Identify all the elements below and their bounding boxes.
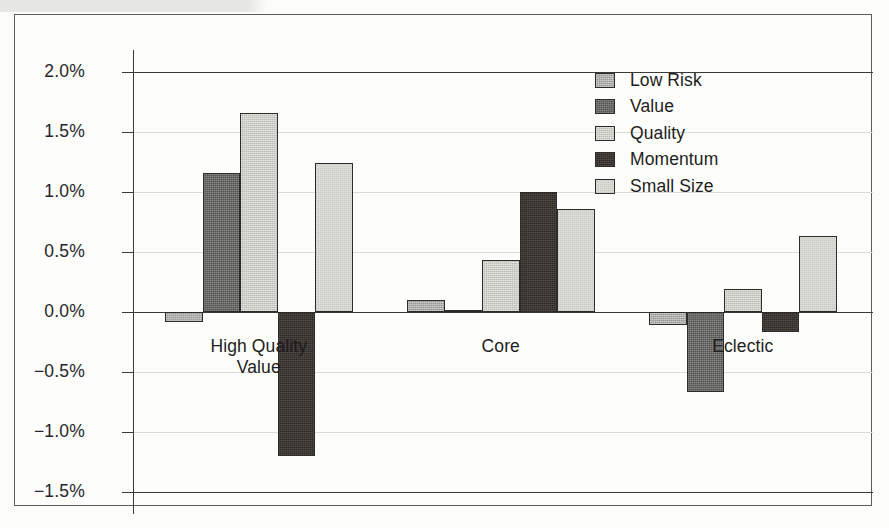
gridline [133,432,873,433]
legend-item: Momentum [595,147,775,174]
bar [649,312,687,325]
figure-frame: High Quality ValueCoreEclectic 2.0%1.5%1… [14,14,872,506]
chart-legend: Low RiskValueQualityMomentumSmall Size [595,67,775,200]
y-axis-tick-label: 1.0% [0,181,85,202]
y-axis-tick-label: 0.0% [0,301,85,322]
legend-swatch-icon [595,152,615,167]
scanned-page-background: High Quality ValueCoreEclectic 2.0%1.5%1… [0,0,889,528]
legend-label: Value [630,96,674,117]
y-axis-tick [122,72,133,73]
legend-swatch-icon [595,179,615,194]
y-axis-tick-label: 0.5% [0,241,85,262]
legend-swatch-icon [595,73,615,88]
legend-item: Small Size [595,173,775,200]
y-axis-tick-label: −0.5% [0,361,85,382]
category-label: Core [385,336,617,357]
y-axis-tick-label: 2.0% [0,61,85,82]
bar [407,300,445,312]
bar [557,209,595,312]
legend-swatch-icon [595,99,615,114]
y-axis-tick-label: −1.0% [0,421,85,442]
category-label: High Quality Value [143,336,375,379]
y-axis-tick [122,432,133,433]
legend-item: Quality [595,120,775,147]
legend-item: Value [595,94,775,121]
bar [240,113,278,312]
y-axis-tick [122,312,133,313]
category-label: Eclectic [627,336,859,357]
y-axis-tick [122,372,133,373]
y-axis-tick-label: −1.5% [0,481,85,502]
bar [445,310,483,312]
legend-label: Quality [630,123,685,144]
legend-item: Low Risk [595,67,775,94]
bar [799,236,837,312]
bar [762,312,800,332]
y-axis-tick [122,192,133,193]
y-axis-tick-label: 1.5% [0,121,85,142]
legend-label: Low Risk [630,70,702,91]
bar [315,163,353,312]
legend-label: Momentum [630,149,718,170]
bar [482,260,520,312]
bar [724,289,762,312]
scan-artifact-smudge [0,0,889,12]
legend-label: Small Size [630,176,714,197]
y-axis-line [133,50,134,514]
bar [520,192,558,312]
y-axis-tick [122,132,133,133]
y-axis-tick [122,252,133,253]
bar [278,312,316,456]
plot-bottom-rule [133,492,873,493]
legend-swatch-icon [595,126,615,141]
bar [165,312,203,322]
y-axis-tick [122,492,133,493]
bar [203,173,241,312]
